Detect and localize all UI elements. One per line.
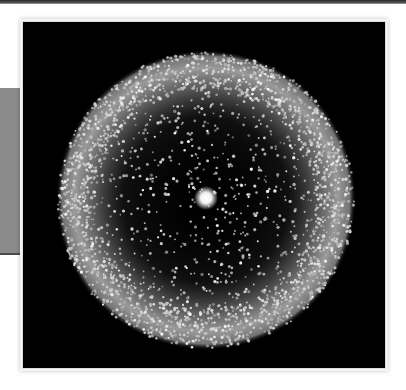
center-core — [194, 186, 218, 210]
particle-ring-graphic — [23, 22, 386, 369]
particle-ring-photo — [22, 21, 386, 369]
top-strip — [0, 0, 406, 4]
